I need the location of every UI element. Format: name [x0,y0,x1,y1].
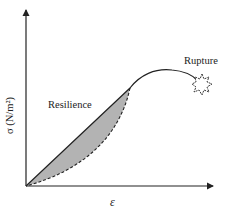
stress-strain-diagram: Rupture Resilience σ (N/m²) ε [0,0,229,213]
rupture-label: Rupture [184,55,218,66]
resilience-label: Resilience [48,99,92,110]
x-axis-label: ε [110,195,115,209]
rupture-marker-icon [192,74,212,95]
y-axis-label: σ (N/m²) [4,96,16,134]
